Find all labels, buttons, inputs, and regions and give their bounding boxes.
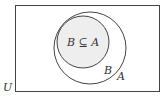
set-b-label: B xyxy=(103,64,112,77)
subset-relation-label: B ⊆ A xyxy=(66,36,99,49)
universe-label: U xyxy=(3,81,13,94)
set-a-label: A xyxy=(116,70,125,83)
venn-diagram: B ⊆ A B A U xyxy=(0,0,161,97)
